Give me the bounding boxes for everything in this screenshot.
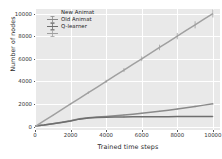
legend-errorbar-marker-icon (47, 8, 58, 15)
legend-item-q-learner: Q-learner (47, 22, 94, 29)
legend: New AnimatOld AnimatQ-learner (45, 7, 96, 30)
legend-label: Q-learner (61, 23, 87, 29)
legend-label: Old Animat (61, 16, 92, 22)
legend-item-new-animat: New Animat (47, 8, 94, 15)
x-tick-label: 2000 (56, 132, 86, 138)
legend-label: New Animat (61, 9, 94, 15)
x-tick-label: 10000 (198, 132, 222, 138)
x-tick-mark (35, 130, 36, 132)
x-tick-mark (106, 130, 107, 132)
x-tick-mark (142, 130, 143, 132)
x-tick-label: 4000 (91, 132, 121, 138)
x-tick-mark (177, 130, 178, 132)
x-tick-mark (213, 130, 214, 132)
x-tick-label: 8000 (162, 132, 192, 138)
x-tick-mark (71, 130, 72, 132)
series-old-animat (35, 116, 213, 126)
legend-errorbar-marker-icon (47, 15, 58, 22)
series-line (35, 116, 213, 126)
figure: Number of nodes Trained time steps 02000… (0, 0, 222, 159)
x-tick-label: 0 (20, 132, 50, 138)
legend-errorbar-marker-icon (47, 22, 58, 29)
legend-item-old-animat: Old Animat (47, 15, 94, 22)
x-tick-label: 6000 (127, 132, 157, 138)
